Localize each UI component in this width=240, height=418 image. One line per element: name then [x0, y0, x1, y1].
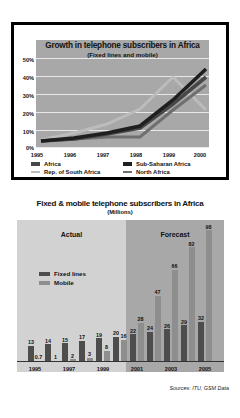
legend-item-north-africa: North Africa [123, 169, 170, 175]
legend-swatch-icon [123, 171, 132, 174]
bar-chart-axis-line [17, 361, 224, 362]
x-tick-label: 1995 [22, 366, 48, 372]
legend-swatch-icon [31, 171, 40, 174]
x-tick-label: 1999 [90, 366, 116, 372]
bar-value-label: 24 [142, 325, 158, 331]
bar-chart: Actual Forecast Fixed lines Mobile 13 0.… [17, 220, 224, 372]
legend-item-rep-of-south-africa: Rep. of South Africa [31, 169, 123, 175]
x-tick-label: 2005 [192, 366, 218, 372]
bar-value-label: 14 [40, 338, 56, 344]
y-tick-label: 20% [17, 111, 34, 117]
x-tick-label: 2003 [158, 366, 184, 372]
bar-value-label: 15 [57, 337, 73, 343]
bar-value-label: 32 [193, 315, 209, 321]
x-tick-label: 1997 [56, 366, 82, 372]
bar-value-label: 28 [133, 316, 149, 322]
bar-value-label: 17 [74, 334, 90, 340]
legend-row: Africa Sub-Saharan Africa [31, 161, 217, 167]
line-chart-series [36, 40, 209, 148]
bar-chart-subtitle: (Millions) [6, 209, 234, 215]
legend-item-sub-saharan-africa: Sub-Saharan Africa [123, 161, 190, 167]
bar-chart-title: Fixed & mobile telephone subscribers in … [6, 199, 234, 208]
bar-groups: 13 0.7 14 1 15 2 17 3 [17, 220, 224, 372]
x-tick-label: 1996 [55, 152, 85, 158]
bar-fixed-lines [181, 325, 187, 362]
y-tick-label: 30% [17, 93, 34, 99]
bar-fixed-lines [96, 338, 102, 362]
bar-mobile [172, 270, 178, 362]
bar-mobile [121, 340, 127, 362]
bar-value-label: 47 [150, 289, 166, 295]
bar-value-label: 82 [184, 241, 200, 247]
bar-value-label: 22 [125, 328, 141, 334]
legend-row: Rep. of South Africa North Africa [31, 169, 217, 175]
bar-fixed-lines [147, 332, 153, 362]
infographic-page: Growth in telephone subscribers in Afric… [0, 0, 240, 418]
bar-value-label: 13 [23, 339, 39, 345]
bar-value-label: 66 [167, 263, 183, 269]
x-tick-label: 1995 [22, 152, 52, 158]
legend-swatch-icon [123, 162, 132, 165]
y-tick-label: 50% [17, 57, 34, 63]
bar-fixed-lines [198, 322, 204, 362]
x-tick-label: 1999 [154, 152, 184, 158]
bar-value-label: 19 [91, 332, 107, 338]
legend-swatch-icon [31, 162, 40, 165]
x-tick-label: 1998 [121, 152, 151, 158]
bar-mobile [189, 247, 195, 362]
bar-fixed-lines [130, 334, 136, 362]
legend-label: Africa [44, 161, 61, 167]
line-chart-card: Growth in telephone subscribers in Afric… [11, 22, 229, 180]
legend-label: North Africa [136, 169, 170, 175]
bar-fixed-lines [164, 329, 170, 362]
bar-value-label: 29 [176, 319, 192, 325]
line-chart-legend: Africa Sub-Saharan Africa Rep. of South … [31, 161, 217, 177]
y-tick-label: 40% [17, 75, 34, 81]
legend-item-africa: Africa [31, 161, 123, 167]
legend-label: Sub-Saharan Africa [136, 161, 190, 167]
x-tick-label: 1997 [88, 152, 118, 158]
bar-fixed-lines [113, 337, 119, 362]
sources-note: Sources: ITU, GSM Data [169, 385, 229, 391]
x-tick-label: 2001 [124, 366, 150, 372]
y-tick-label: 10% [17, 129, 34, 135]
x-tick-label: 2000 [185, 152, 215, 158]
bar-mobile [206, 230, 212, 362]
y-tick-label: 0% [17, 145, 34, 151]
bar-value-label: 98 [201, 224, 217, 230]
legend-label: Rep. of South Africa [44, 169, 100, 175]
bar-value-label: 26 [159, 323, 175, 329]
line-chart-inner: Growth in telephone subscribers in Afric… [17, 28, 223, 174]
